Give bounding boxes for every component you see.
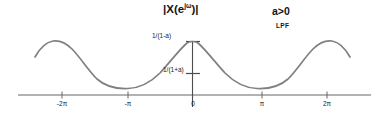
figure-canvas: |X(ejω)| a>0 LPF 1/(1-a) 1/(1+a) -2π -π … [0, 0, 389, 117]
x-tick-label-minus-2pi: -2π [57, 100, 67, 107]
x-tick-label-minus-pi: -π [125, 100, 132, 107]
plot-title-base: |X(e [163, 3, 184, 15]
x-tick-label-zero: 0 [191, 100, 195, 107]
plot-title: |X(ejω)| [163, 3, 198, 15]
plot-title-tail: )| [191, 3, 198, 15]
x-tick-label-pi: π [260, 100, 265, 107]
x-tick-label-2pi: 2π [323, 100, 331, 107]
y-label-mid: 1/(1+a) [163, 67, 184, 74]
condition-annotation: a>0 [272, 6, 290, 17]
filter-type-annotation: LPF [276, 23, 289, 30]
y-label-max: 1/(1-a) [152, 33, 171, 40]
